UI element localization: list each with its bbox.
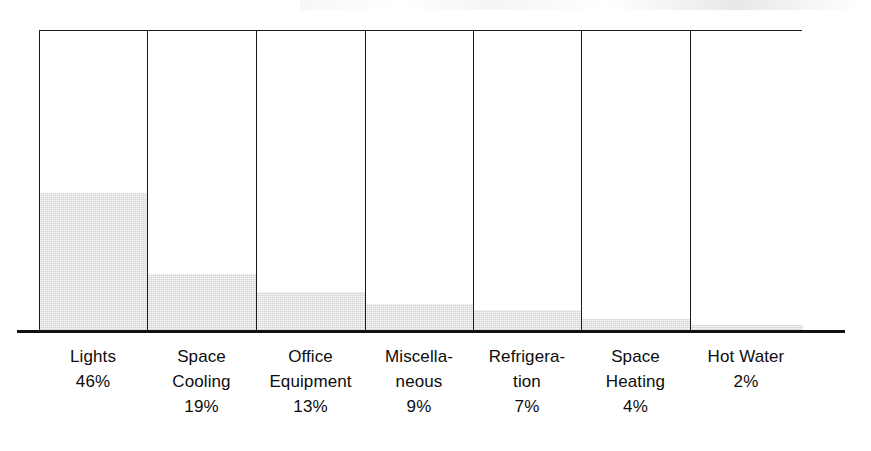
tick-label-value-refrigeration: 7% xyxy=(473,394,581,419)
bar-column-hot-water xyxy=(691,31,803,331)
tick-label-office-equipment: Office Equipment 13% xyxy=(256,344,365,419)
tick-label-miscellaneous: Miscella- neous 9% xyxy=(365,344,473,419)
tick-label-value-hot-water: 2% xyxy=(690,369,802,394)
tick-label-name-office-equipment: Office Equipment xyxy=(256,344,365,394)
tick-label-hot-water: Hot Water 2% xyxy=(690,344,802,394)
tick-label-name-space-cooling: Space Cooling xyxy=(147,344,256,394)
tick-label-value-miscellaneous: 9% xyxy=(365,394,473,419)
bar-fill-lights xyxy=(40,193,147,331)
chart-page: Lights 46% Space Cooling 19% Office Equi… xyxy=(0,0,871,451)
bar-column-office-equipment xyxy=(257,31,366,331)
bar-column-space-heating xyxy=(582,31,691,331)
tick-label-name-lights: Lights xyxy=(39,344,147,369)
tick-label-lights: Lights 46% xyxy=(39,344,147,394)
bar-fill-refrigeration xyxy=(474,310,581,331)
bar-column-refrigeration xyxy=(474,31,582,331)
x-axis-tick-labels: Lights 46% Space Cooling 19% Office Equi… xyxy=(39,344,802,419)
bar-column-miscellaneous xyxy=(366,31,474,331)
tick-label-value-space-cooling: 19% xyxy=(147,394,256,419)
bar-column-space-cooling xyxy=(148,31,257,331)
plot-area xyxy=(39,30,802,331)
scan-artifact xyxy=(300,0,860,10)
tick-label-name-hot-water: Hot Water xyxy=(690,344,802,369)
tick-label-name-miscellaneous: Miscella- neous xyxy=(365,344,473,394)
bar-fill-miscellaneous xyxy=(366,304,473,331)
bar-fill-space-cooling xyxy=(148,274,256,331)
tick-label-name-space-heating: Space Heating xyxy=(581,344,690,394)
tick-label-value-lights: 46% xyxy=(39,369,147,394)
tick-label-value-office-equipment: 13% xyxy=(256,394,365,419)
bar-fill-office-equipment xyxy=(257,292,365,331)
tick-label-space-cooling: Space Cooling 19% xyxy=(147,344,256,419)
bar-column-lights xyxy=(40,31,148,331)
tick-label-value-space-heating: 4% xyxy=(581,394,690,419)
x-axis-baseline xyxy=(17,330,845,333)
tick-label-refrigeration: Refrigera- tion 7% xyxy=(473,344,581,419)
tick-label-name-refrigeration: Refrigera- tion xyxy=(473,344,581,394)
tick-label-space-heating: Space Heating 4% xyxy=(581,344,690,419)
